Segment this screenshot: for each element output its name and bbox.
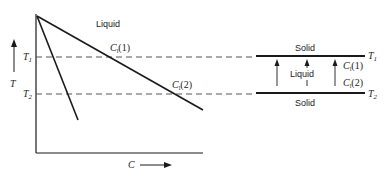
cl2-label-right: Cl(2) bbox=[343, 77, 363, 89]
solid-bottom-label: Solid bbox=[295, 98, 315, 108]
x-axis-label: C bbox=[128, 159, 135, 170]
phase-boundary-lines bbox=[37, 16, 203, 120]
cl1-label-right: Cl(1) bbox=[343, 60, 363, 72]
cl1-label-left: Cl(1) bbox=[110, 42, 130, 54]
solid-top-label: Solid bbox=[295, 43, 315, 53]
liquid-middle-label: Liquid bbox=[290, 69, 314, 79]
liquid-region-label: Liquid bbox=[96, 19, 120, 29]
phase-diagram-figure: T C T1 T2 Liquid Cl(1) Cl(2) Solid Liqui… bbox=[0, 0, 385, 176]
y-axis-label: T bbox=[10, 78, 17, 89]
concentration-axis-arrow-icon bbox=[140, 162, 172, 168]
t2-label-right: T2 bbox=[368, 88, 378, 101]
t1-label-left: T1 bbox=[23, 51, 32, 64]
t1-label-right: T1 bbox=[368, 50, 377, 63]
temperature-level-lines bbox=[36, 57, 256, 94]
t2-label-left: T2 bbox=[23, 88, 33, 101]
cl2-label-left: Cl(2) bbox=[172, 79, 192, 91]
temperature-axis-arrow-icon bbox=[11, 39, 17, 72]
